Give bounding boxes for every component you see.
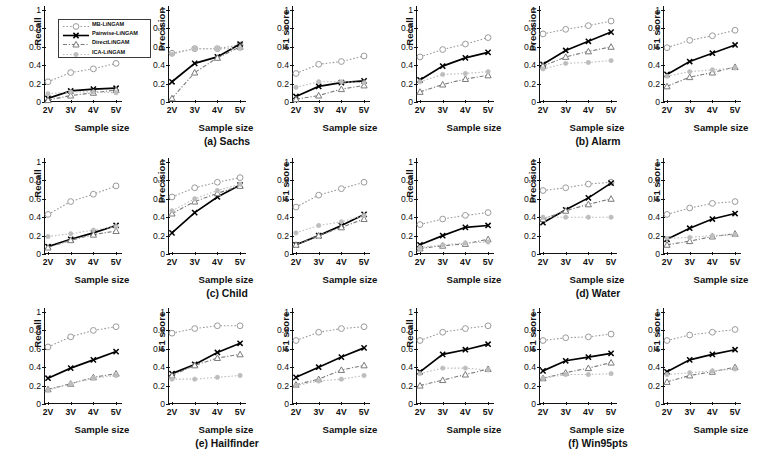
series-layer [663,162,751,256]
series-line [420,369,488,386]
panel-9-child-f1: F1 score00.20.40.60.812V3V4V5VSample siz… [256,152,374,307]
y-tick-label: 0.8 [153,176,165,184]
x-tick-labels: 2V3V4V5V [655,407,749,419]
series-line [172,185,240,233]
y-tick-label: 0.4 [648,213,660,221]
x-tick-label: 4V [583,407,594,417]
x-tick-label: 3V [684,407,695,417]
x-tick-label: 5V [111,105,122,115]
series-line [172,343,240,373]
x-tick-label: 4V [88,407,99,417]
series-line [420,213,488,225]
y-tick-labels: 00.20.40.60.81 [20,162,42,254]
x-axis-title: Sample size [188,274,264,285]
y-tick-label: 0.2 [29,80,41,88]
x-tick-label: 3V [313,105,324,115]
x-axis-title: Sample size [683,424,759,435]
x-tick-label: 4V [460,257,471,267]
x-tick-label: 4V [460,105,471,115]
x-tick-labels: 2V3V4V5V [284,257,378,269]
series-layer [168,10,256,104]
y-tick-labels: 00.20.40.60.81 [20,10,42,102]
legend-label: DirectLiNGAM [92,39,129,45]
x-tick-label: 3V [189,105,200,115]
figure-row-3: Recall00.20.40.60.812V3V4V5VSample size … [0,302,769,457]
panel-12-water-f1: F1 score00.20.40.60.812V3V4V5VSample siz… [627,152,745,307]
x-tick-labels: 2V3V4V5V [36,407,130,419]
plot-area: 00.20.40.60.812V3V4V5VSample size [416,162,490,254]
y-tick-label: 0.8 [401,326,413,334]
legend: MB-LiNGAMPairwise-LiNGAMDirectLiNGAMICA-… [58,19,151,58]
y-tick-label: 0.6 [153,43,165,51]
series-layer [292,162,380,256]
series-line [296,81,364,97]
y-tick-label: 0.4 [153,61,165,69]
y-tick-label: 1 [160,158,165,166]
series-layer [416,312,504,406]
x-tick-label: 3V [437,257,448,267]
x-tick-label: 4V [460,407,471,417]
x-tick-label: 5V [359,105,370,115]
x-tick-label: 2V [538,407,549,417]
x-tick-label: 4V [707,407,718,417]
series-layer [44,162,132,256]
x-tick-label: 5V [483,105,494,115]
x-axis-title: Sample size [683,122,759,133]
series-line [48,231,116,248]
y-tick-label: 1 [531,6,536,14]
y-tick-labels: 00.20.40.60.81 [268,162,290,254]
x-tick-labels: 2V3V4V5V [408,407,502,419]
y-tick-label: 0.4 [401,61,413,69]
y-tick-label: 0.2 [277,232,289,240]
x-tick-labels: 2V3V4V5V [408,105,502,117]
series-line [543,353,611,370]
series-layer [292,10,380,104]
series-line [667,45,735,74]
y-tick-label: 0.4 [29,363,41,371]
panel-11-water-precision: Precision00.20.40.60.812V3V4V5VSample si… [503,152,621,307]
x-tick-labels: 2V3V4V5V [36,105,130,117]
panel-13-hailfinder-recall: Recall00.20.40.60.812V3V4V5VSample size [8,302,126,457]
x-tick-labels: 2V3V4V5V [655,257,749,269]
x-tick-label: 5V [359,407,370,417]
series-line [48,352,116,379]
y-tick-label: 1 [36,158,41,166]
plot-area: 00.20.40.60.812V3V4V5VSample size(c) Chi… [168,162,242,254]
y-tick-label: 0.6 [401,195,413,203]
y-tick-label: 0.8 [29,176,41,184]
legend-marker-dot-icon [62,50,90,59]
series-line [667,234,735,245]
x-tick-label: 4V [707,105,718,115]
y-tick-label: 0.8 [648,176,660,184]
series-line [296,56,364,73]
series-line [543,183,611,223]
y-tick-label: 1 [655,158,660,166]
legend-label: Pairwise-LiNGAM [92,30,138,36]
plot-area: 00.20.40.60.812V3V4V5VSample size(d) Wat… [539,162,613,254]
y-tick-label: 0.6 [401,43,413,51]
plot-area: 00.20.40.60.812V3V4V5VSample size [663,312,737,404]
series-line [172,354,240,375]
x-tick-label: 5V [730,257,741,267]
x-tick-label: 3V [313,257,324,267]
plot-area: 00.20.40.60.812V3V4V5VSample size(b) Ala… [539,10,613,102]
y-tick-label: 0.2 [29,382,41,390]
y-tick-label: 0.2 [153,232,165,240]
x-tick-label: 4V [707,257,718,267]
plot-area: 00.20.40.60.812V3V4V5VSample size [44,312,118,404]
x-tick-labels: 2V3V4V5V [655,105,749,117]
x-tick-label: 4V [88,105,99,115]
plot-area: 00.20.40.60.812V3V4V5VSample size [663,10,737,102]
x-axis-title: Sample size [559,424,635,435]
x-tick-label: 3V [437,105,448,115]
y-tick-label: 0.8 [29,24,41,32]
x-tick-labels: 2V3V4V5V [160,407,254,419]
plot-area: 00.20.40.60.812V3V4V5VSample size [416,10,490,102]
y-tick-label: 0.6 [648,195,660,203]
plot-area: 00.20.40.60.812V3V4V5VSample size [292,162,366,254]
y-tick-label: 0.2 [277,382,289,390]
x-tick-label: 3V [684,105,695,115]
legend-entry: ICA-LiNGAM [60,50,151,59]
series-line [48,186,116,215]
series-line [172,326,240,333]
